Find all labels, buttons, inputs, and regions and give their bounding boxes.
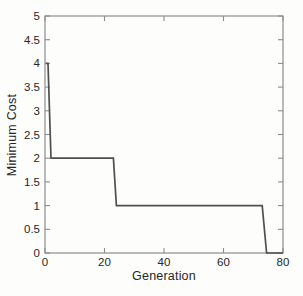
y-tick-label: 0: [34, 247, 40, 259]
y-tick-label: 1.5: [24, 176, 40, 188]
y-tick-label: 1: [34, 200, 40, 212]
x-tick-label: 0: [42, 256, 48, 268]
y-tick-label: 5: [34, 10, 40, 22]
x-tick-label: 60: [217, 256, 230, 268]
x-tick-label: 20: [98, 256, 111, 268]
y-axis-label: Minimum Cost: [5, 94, 19, 176]
chart-plot-area: 02040608000.511.522.533.544.55: [0, 0, 303, 296]
y-tick-label: 3: [34, 105, 40, 117]
y-tick-label: 0.5: [24, 223, 40, 235]
y-tick-label: 2: [34, 152, 40, 164]
x-axis-label: Generation: [45, 269, 283, 283]
figure: 02040608000.511.522.533.544.55 Generatio…: [0, 0, 303, 296]
axes-box: [45, 16, 283, 253]
y-tick-label: 2.5: [24, 129, 40, 141]
minimum-cost-line: [46, 63, 283, 253]
y-tick-label: 4: [34, 57, 41, 69]
x-tick-label: 40: [158, 256, 171, 268]
y-tick-label: 4.5: [24, 34, 40, 46]
x-tick-label: 80: [277, 256, 290, 268]
y-tick-label: 3.5: [24, 81, 40, 93]
